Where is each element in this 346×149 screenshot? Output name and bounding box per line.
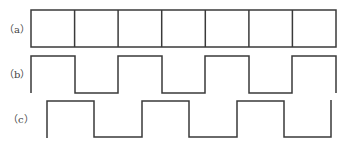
row-label-b: （b） [4, 69, 30, 81]
waveform-canvas [0, 0, 346, 149]
row-b-square-wave [31, 56, 336, 93]
waveform-figure: （a） （b） （c） [0, 0, 346, 149]
row-a-grid [31, 10, 336, 47]
row-c-square-wave [47, 100, 331, 138]
grid-a-dividers [75, 10, 293, 47]
row-label-a: （a） [4, 24, 30, 36]
grid-a-outline [31, 10, 336, 47]
row-label-c: （c） [8, 114, 34, 126]
